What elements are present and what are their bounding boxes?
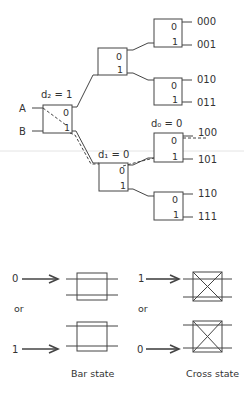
switching-network-diagram: d₂ = 1 A B 0 1 0 1 d₁ = 0 0 1 0 1 000 00… bbox=[0, 0, 244, 393]
switch-root: d₂ = 1 A B 0 1 bbox=[19, 89, 72, 137]
wire-upper-to-box2 bbox=[127, 73, 154, 80]
port-0: 0 bbox=[63, 107, 69, 118]
switch-box bbox=[154, 133, 183, 162]
cross-state-caption: Cross state bbox=[186, 368, 239, 379]
switch-output-4: 0 1 110 111 bbox=[154, 188, 217, 222]
wire-lower-to-box4 bbox=[128, 189, 154, 196]
output-label-111: 111 bbox=[198, 211, 217, 222]
input-label-a: A bbox=[19, 103, 26, 114]
output-label-110: 110 bbox=[198, 188, 217, 199]
port-0: 0 bbox=[171, 80, 177, 91]
label-d2: d₂ = 1 bbox=[41, 89, 72, 100]
label-d1: d₁ = 0 bbox=[98, 149, 129, 160]
port-0: 0 bbox=[119, 165, 125, 176]
port-1: 1 bbox=[173, 209, 179, 220]
output-label-100: 100 bbox=[198, 127, 217, 138]
wire-root-to-lower bbox=[72, 131, 99, 163]
port-0: 0 bbox=[116, 51, 122, 62]
port-1: 1 bbox=[172, 94, 178, 105]
cross-input-0: 0 bbox=[137, 344, 143, 355]
output-label-000: 000 bbox=[197, 16, 216, 27]
port-0: 0 bbox=[171, 135, 177, 146]
input-label-b: B bbox=[19, 126, 26, 137]
port-1: 1 bbox=[117, 64, 123, 75]
switch-lower-middle: d₁ = 0 0 1 bbox=[98, 149, 129, 191]
label-d0: d₀ = 0 bbox=[151, 118, 182, 129]
cross-input-1: 1 bbox=[138, 273, 144, 284]
switch-upper-middle: 0 1 bbox=[98, 48, 127, 75]
wire-root-to-upper bbox=[72, 75, 98, 107]
or-label: or bbox=[138, 303, 148, 314]
output-label-001: 001 bbox=[197, 39, 216, 50]
port-0: 0 bbox=[172, 194, 178, 205]
port-1: 1 bbox=[172, 151, 178, 162]
switch-output-2: 0 1 010 011 bbox=[154, 74, 216, 108]
port-0: 0 bbox=[171, 21, 177, 32]
wire-upper-to-box1 bbox=[127, 43, 154, 50]
output-label-011: 011 bbox=[197, 97, 216, 108]
bar-input-1: 1 bbox=[12, 344, 18, 355]
legend-cross-state: 1 or 0 Cross state bbox=[137, 272, 239, 379]
output-label-101: 101 bbox=[198, 154, 217, 165]
bar-state-caption: Bar state bbox=[71, 368, 114, 379]
switch-output-3: d₀ = 0 0 1 100 101 bbox=[151, 118, 217, 165]
port-1: 1 bbox=[120, 180, 126, 191]
output-label-010: 010 bbox=[197, 74, 216, 85]
or-label: or bbox=[14, 303, 24, 314]
bar-switch-box bbox=[77, 273, 107, 300]
switch-output-1: 0 1 000 001 bbox=[154, 16, 216, 50]
port-1: 1 bbox=[172, 36, 178, 47]
bar-input-0: 0 bbox=[12, 273, 18, 284]
legend-bar-state: 0 or 1 Bar state bbox=[12, 273, 118, 379]
